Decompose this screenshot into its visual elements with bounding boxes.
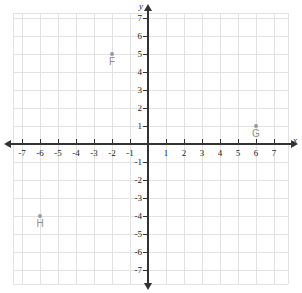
plotted-point-label-g: G [249,129,263,139]
coordinate-plane: x y -7-6-5-4-3-2-11234567-7-6-5-4-3-2-11… [0,0,302,293]
plotted-point-label-h: H [33,219,47,229]
point-layer: FGH [0,0,302,293]
plotted-point-label-f: F [105,57,119,67]
